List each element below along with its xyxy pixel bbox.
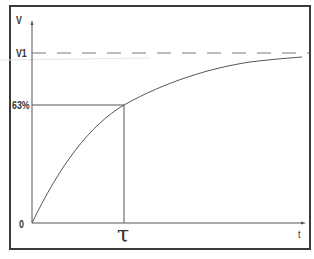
x-axis-arrow-icon (301, 222, 306, 225)
y-axis-label: V (16, 15, 22, 26)
origin-label: 0 (19, 219, 24, 230)
v1-label: V1 (16, 48, 27, 59)
tau-label: τ (117, 224, 129, 246)
exponential-curve (32, 57, 302, 223)
y-axis-arrow-icon (31, 20, 34, 25)
x-axis-label: t (298, 229, 300, 240)
charging-curve-plot (0, 0, 314, 259)
sixty-three-percent-label: 63% (12, 100, 30, 111)
